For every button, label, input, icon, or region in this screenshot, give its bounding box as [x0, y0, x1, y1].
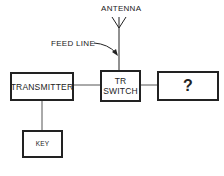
feed-line-arrow-icon — [94, 43, 118, 56]
antenna-icon — [112, 17, 126, 28]
transmitter-label: TRANSMITTER — [11, 82, 74, 92]
tr-switch-label-line2: SWITCH — [103, 86, 138, 96]
feed-line-label: FEED LINE — [51, 39, 95, 48]
tr-switch-block: TR SWITCH — [100, 70, 141, 102]
key-block: KEY — [22, 130, 63, 158]
unknown-block: ? — [157, 71, 219, 101]
unknown-label: ? — [183, 77, 193, 95]
key-label: KEY — [36, 139, 50, 149]
tr-switch-label-line1: TR — [115, 76, 127, 86]
transmitter-block: TRANSMITTER — [10, 72, 74, 101]
antenna-label: ANTENNA — [101, 4, 141, 13]
